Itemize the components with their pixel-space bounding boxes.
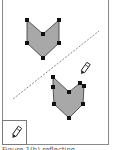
- vertex-handle[interactable]: [82, 84, 86, 88]
- vertex-handle[interactable]: [51, 85, 55, 89]
- vertex-handle[interactable]: [78, 81, 82, 85]
- vertex-handle[interactable]: [25, 18, 29, 22]
- pencil-tool-button[interactable]: [2, 120, 27, 145]
- vertex-handle[interactable]: [67, 116, 71, 120]
- pencil-icon[interactable]: [79, 62, 90, 75]
- figure-caption: Figure 1(b) reflection: [2, 146, 111, 150]
- vertex-handle[interactable]: [25, 41, 29, 45]
- vertex-handle[interactable]: [81, 102, 85, 106]
- vertex-handle[interactable]: [51, 75, 55, 79]
- vertex-handle[interactable]: [57, 18, 61, 22]
- pencil-icon: [3, 121, 28, 146]
- vertex-handle[interactable]: [41, 56, 45, 60]
- vertex-handle[interactable]: [57, 41, 61, 45]
- vertex-handle[interactable]: [41, 32, 45, 36]
- original-shape[interactable]: [27, 20, 59, 58]
- vertex-handle[interactable]: [67, 90, 71, 94]
- vertex-handle[interactable]: [52, 102, 56, 106]
